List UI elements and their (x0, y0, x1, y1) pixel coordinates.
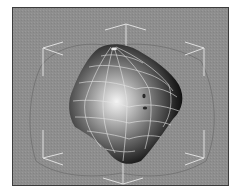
top-pole-highlight (111, 48, 117, 51)
3d-viewport[interactable] (12, 7, 229, 186)
viewport-canvas[interactable] (13, 8, 229, 186)
